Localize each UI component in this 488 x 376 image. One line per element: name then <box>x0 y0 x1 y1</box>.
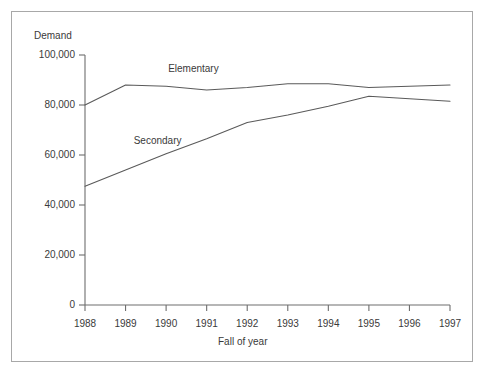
x-axis-tick-label: 1988 <box>74 319 96 329</box>
x-axis-tick-label: 1994 <box>317 319 339 329</box>
y-axis-tick-label: 0 <box>0 300 75 310</box>
y-axis-tick-label: 80,000 <box>0 100 75 110</box>
y-axis-tick-label: 60,000 <box>0 150 75 160</box>
series-label-secondary: Secondary <box>134 136 182 146</box>
x-axis-tick-label: 1992 <box>236 319 258 329</box>
y-axis-tick-label: 40,000 <box>0 200 75 210</box>
x-axis-tick-label: 1996 <box>398 319 420 329</box>
axes-group <box>79 55 450 311</box>
series-line-elementary <box>85 84 450 105</box>
x-axis-tick-label: 1995 <box>358 319 380 329</box>
series-label-elementary: Elementary <box>168 64 219 74</box>
x-axis-tick-label: 1989 <box>114 319 136 329</box>
x-axis-tick-label: 1990 <box>155 319 177 329</box>
x-axis-tick-label: 1993 <box>277 319 299 329</box>
y-axis-title: Demand <box>34 31 72 41</box>
y-axis-tick-label: 100,000 <box>0 50 75 60</box>
y-axis-tick-label: 20,000 <box>0 250 75 260</box>
x-axis-tick-label: 1997 <box>439 319 461 329</box>
x-axis-tick-label: 1991 <box>196 319 218 329</box>
chart-figure: Demand Fall of year 020,00040,00060,0008… <box>0 0 488 376</box>
x-axis-title: Fall of year <box>218 337 267 347</box>
